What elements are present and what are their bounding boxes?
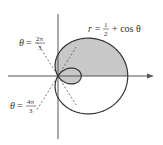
- ray2-theta: θ: [10, 100, 15, 111]
- ray1-frac-den: 3: [38, 44, 42, 52]
- x-axis-arrow-icon: [147, 74, 154, 79]
- eq-lhs: r: [88, 23, 92, 34]
- eq-frac-num: 1: [104, 21, 108, 29]
- equation-label: r = 1 2 + cos θ: [88, 21, 141, 38]
- ray2-frac-num: 4π: [27, 98, 35, 106]
- polar-plot: r = 1 2 + cos θ θ = 2π 3 θ = 4π 3: [0, 0, 163, 145]
- ray-label-4pi3: θ = 4π 3: [10, 98, 36, 115]
- ray-label-2pi3: θ = 2π 3: [19, 35, 45, 52]
- eq-rhs: + cos θ: [112, 23, 141, 34]
- ray1-frac-num: 2π: [36, 35, 44, 43]
- ray1-equals: =: [26, 37, 32, 48]
- eq-equals: =: [95, 23, 101, 34]
- eq-frac-den: 2: [104, 30, 108, 38]
- ray2-equals: =: [17, 100, 23, 111]
- ray1-theta: θ: [19, 37, 24, 48]
- ray2-frac-den: 3: [29, 107, 33, 115]
